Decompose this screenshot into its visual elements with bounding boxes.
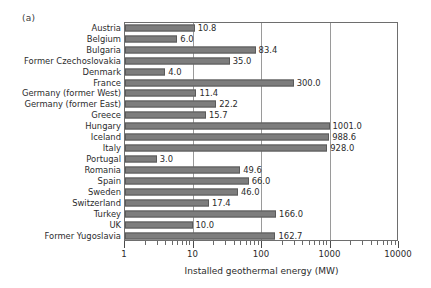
x-tick-minor: [391, 241, 392, 245]
category-label: Former Yugoslavia: [1, 231, 121, 240]
bar-value-label: 928.0: [330, 144, 354, 153]
x-tick-major: [193, 241, 194, 248]
x-tick-minor: [258, 241, 259, 245]
bar-row: Greece15.7: [0, 110, 431, 122]
x-tick-minor: [157, 241, 158, 245]
bar-value-label: 3.0: [160, 155, 173, 164]
bar: [125, 24, 195, 31]
bar: [125, 35, 177, 42]
bar-value-label: 10.8: [198, 23, 217, 32]
x-tick-minor: [314, 241, 315, 245]
x-tick-major: [330, 241, 331, 248]
bar: [125, 221, 193, 228]
bar-value-label: 1001.0: [333, 122, 362, 131]
figure-panel-a: (a) Austria10.8Belgium6.0Bulgaria83.4For…: [0, 0, 431, 288]
bar-row: Austria10.8: [0, 22, 431, 34]
x-tick-minor: [294, 241, 295, 245]
x-tick-label: 100: [253, 249, 269, 259]
bar: [125, 90, 196, 97]
category-label-wrap: Bulgaria: [0, 44, 121, 56]
category-label: Sweden: [1, 188, 121, 197]
bar-row: Germany (former West)11.4: [0, 88, 431, 100]
x-tick-minor: [165, 241, 166, 245]
bar: [125, 199, 209, 206]
category-label-wrap: Hungary: [0, 121, 121, 133]
category-label-wrap: Sweden: [0, 186, 121, 198]
x-tick-minor: [225, 241, 226, 245]
x-tick-minor: [309, 241, 310, 245]
category-label-wrap: France: [0, 77, 121, 89]
bar-row: Former Czechoslovakia35.0: [0, 55, 431, 67]
category-label: Germany (former East): [1, 100, 121, 109]
bar: [125, 112, 206, 119]
category-label-wrap: Germany (former West): [0, 88, 121, 100]
x-tick-minor: [395, 241, 396, 245]
bar-row: Denmark4.0: [0, 66, 431, 78]
bar-value-label: 6.0: [180, 34, 193, 43]
x-axis: 110100100010000: [124, 241, 399, 251]
bar-row: Spain66.0: [0, 175, 431, 187]
x-tick-minor: [282, 241, 283, 245]
bar-value-label: 162.7: [278, 231, 302, 240]
bar-row: Turkey166.0: [0, 208, 431, 220]
bar: [125, 178, 249, 185]
x-tick-minor: [387, 241, 388, 245]
category-label-wrap: Iceland: [0, 132, 121, 144]
x-tick-minor: [377, 241, 378, 245]
x-tick-minor: [383, 241, 384, 245]
category-label: Bulgaria: [1, 45, 121, 54]
bar: [125, 145, 327, 152]
category-label: Germany (former West): [1, 89, 121, 98]
bar: [125, 57, 230, 64]
x-tick-label: 10: [187, 249, 198, 259]
category-label-wrap: Denmark: [0, 66, 121, 78]
bar-value-label: 22.2: [219, 100, 238, 109]
category-label-wrap: Austria: [0, 22, 121, 34]
category-label: Austria: [1, 23, 121, 32]
bar: [125, 68, 165, 75]
bar: [125, 46, 256, 53]
category-label: Romania: [1, 166, 121, 175]
bar-row: Hungary1001.0: [0, 121, 431, 133]
bar: [125, 156, 157, 163]
bar-row: UK10.0: [0, 219, 431, 231]
category-label: Italy: [1, 144, 121, 153]
x-tick-minor: [250, 241, 251, 245]
bar-row: Germany (former East)22.2: [0, 99, 431, 111]
x-tick-label: 10000: [384, 249, 411, 259]
x-tick-minor: [326, 241, 327, 245]
x-tick-minor: [371, 241, 372, 245]
category-label: Hungary: [1, 122, 121, 131]
x-tick-minor: [186, 241, 187, 245]
bar-value-label: 83.4: [259, 45, 278, 54]
bar-value-label: 15.7: [209, 111, 228, 120]
bar-row: Sweden46.0: [0, 186, 431, 198]
category-label-wrap: Belgium: [0, 33, 121, 45]
bar: [125, 134, 329, 141]
x-tick-label: 1: [121, 249, 126, 259]
bar-value-label: 46.0: [241, 188, 260, 197]
x-tick-minor: [323, 241, 324, 245]
category-label: Portugal: [1, 155, 121, 164]
bar-value-label: 10.0: [196, 220, 215, 229]
category-label: UK: [1, 220, 121, 229]
bar-value-label: 300.0: [297, 78, 321, 87]
category-label: Belgium: [1, 34, 121, 43]
bar-value-label: 17.4: [212, 198, 231, 207]
x-tick-minor: [246, 241, 247, 245]
bar-row: Italy928.0: [0, 142, 431, 154]
category-label: Switzerland: [1, 198, 121, 207]
x-tick-minor: [362, 241, 363, 245]
category-label-wrap: Former Czechoslovakia: [0, 55, 121, 67]
bar-row: Belgium6.0: [0, 33, 431, 45]
x-tick-minor: [189, 241, 190, 245]
x-tick-minor: [213, 241, 214, 245]
x-tick-minor: [254, 241, 255, 245]
category-label-wrap: Spain: [0, 175, 121, 187]
x-tick-minor: [172, 241, 173, 245]
bar-row: Bulgaria83.4: [0, 44, 431, 56]
x-tick-minor: [319, 241, 320, 245]
x-tick-minor: [177, 241, 178, 245]
category-label: Iceland: [1, 133, 121, 142]
bar: [125, 167, 240, 174]
